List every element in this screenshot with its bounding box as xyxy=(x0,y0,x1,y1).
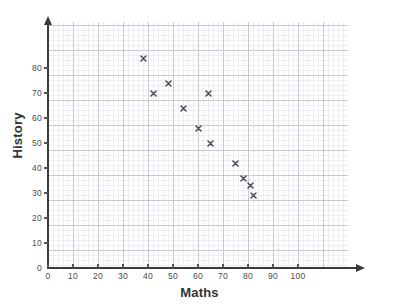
y-tick-40 xyxy=(44,167,48,168)
data-point-marker xyxy=(150,90,157,97)
y-axis-title: History xyxy=(10,91,25,181)
data-point-marker xyxy=(180,105,187,112)
x-tick-70 xyxy=(222,264,223,268)
x-tick-label-100: 100 xyxy=(283,271,313,281)
x-tick-30 xyxy=(122,264,123,268)
x-tick-100 xyxy=(297,264,298,268)
data-point-marker xyxy=(250,192,257,199)
y-axis-line xyxy=(47,24,49,268)
y-tick-20 xyxy=(44,217,48,218)
grid-paper-background xyxy=(48,22,348,268)
data-point-marker xyxy=(232,160,239,167)
y-tick-label-0: 0 xyxy=(18,263,42,273)
data-point-marker xyxy=(207,140,214,147)
data-point-marker xyxy=(247,182,254,189)
x-axis-title: Maths xyxy=(0,285,399,300)
y-tick-label-80: 80 xyxy=(18,63,42,73)
data-point-marker xyxy=(165,80,172,87)
x-tick-0 xyxy=(47,264,48,268)
x-tick-10 xyxy=(72,264,73,268)
y-tick-80 xyxy=(44,67,48,68)
y-tick-50 xyxy=(44,142,48,143)
y-axis-arrow-icon xyxy=(44,16,52,25)
x-tick-60 xyxy=(197,264,198,268)
x-tick-80 xyxy=(247,264,248,268)
y-tick-label-20: 20 xyxy=(18,213,42,223)
scatter-chart: 0102030405060708090100 01020304050607080… xyxy=(0,0,399,306)
x-tick-40 xyxy=(147,264,148,268)
data-point-marker xyxy=(140,55,147,62)
data-point-marker xyxy=(240,175,247,182)
y-tick-70 xyxy=(44,92,48,93)
x-tick-20 xyxy=(97,264,98,268)
x-tick-50 xyxy=(172,264,173,268)
data-point-marker xyxy=(195,125,202,132)
y-tick-10 xyxy=(44,242,48,243)
data-point-marker xyxy=(205,90,212,97)
y-tick-30 xyxy=(44,192,48,193)
x-axis-line xyxy=(47,267,356,269)
y-tick-label-30: 30 xyxy=(18,188,42,198)
y-tick-60 xyxy=(44,117,48,118)
x-axis-arrow-icon xyxy=(356,264,365,272)
x-tick-90 xyxy=(272,264,273,268)
y-tick-label-10: 10 xyxy=(18,238,42,248)
